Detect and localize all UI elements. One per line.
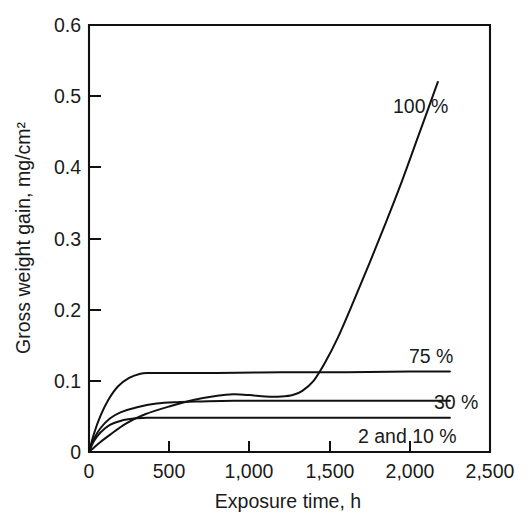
series-label-100: 100 % <box>393 95 448 117</box>
data-series-group <box>89 82 450 452</box>
series-curve-100 <box>89 82 438 452</box>
series-label-2-and-10: 2 and 10 % <box>358 425 457 447</box>
x-tick-label-500: 500 <box>153 460 186 482</box>
x-tick-label-2000: 2,000 <box>386 460 435 482</box>
y-tick-label-0: 0 <box>70 441 81 463</box>
plot-frame <box>89 25 490 452</box>
x-axis-title: Exposure time, h <box>215 490 361 512</box>
y-tick-label-0_1: 0.1 <box>54 370 81 392</box>
y-tick-label-0_4: 0.4 <box>54 156 81 178</box>
y-tick-label-0_5: 0.5 <box>54 85 81 107</box>
weight-gain-line-chart: 0 0.1 0.2 0.3 0.4 0.5 0.6 0 500 1,000 1,… <box>0 0 532 531</box>
x-tick-label-1000: 1,000 <box>225 460 274 482</box>
y-tick-label-0_3: 0.3 <box>54 228 81 250</box>
y-axis-title: Gross weight gain, mg/cm² <box>12 122 34 354</box>
x-tick-label-1500: 1,500 <box>306 460 355 482</box>
chart-figure: 0 0.1 0.2 0.3 0.4 0.5 0.6 0 500 1,000 1,… <box>0 0 532 531</box>
y-tick-label-0_2: 0.2 <box>54 299 81 321</box>
x-tick-label-2500: 2,500 <box>466 460 515 482</box>
series-label-75: 75 % <box>409 345 453 367</box>
series-label-30: 30 % <box>434 391 478 413</box>
y-tick-label-0_6: 0.6 <box>54 14 81 36</box>
figure-bottom-margin <box>0 519 532 531</box>
y-axis-ticks <box>89 96 101 381</box>
x-tick-label-0: 0 <box>84 460 95 482</box>
